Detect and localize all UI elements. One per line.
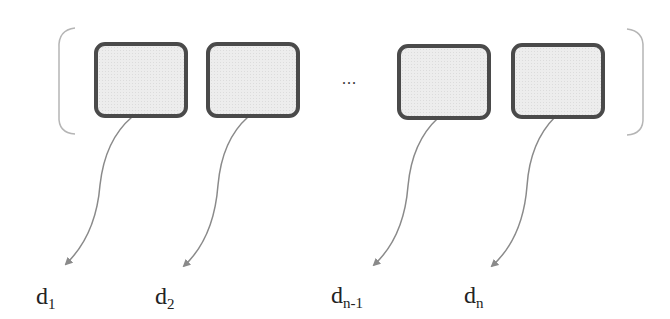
vector-element-n [511, 43, 605, 119]
label-subscript: 1 [48, 296, 56, 312]
label-base: d [464, 282, 476, 308]
label-subscript: 2 [167, 296, 175, 312]
label-base: d [331, 282, 343, 308]
label-dn-1: dn-1 [331, 283, 363, 311]
arrow-n [492, 117, 555, 266]
label-base: d [36, 283, 48, 309]
arrow-n-1 [374, 118, 438, 265]
label-dn: dn [464, 283, 484, 311]
ellipsis: ... [342, 70, 357, 88]
label-base: d [155, 283, 167, 309]
label-d1: d1 [36, 284, 56, 312]
arrow-2 [184, 117, 248, 266]
left-bracket [59, 28, 75, 134]
label-subscript: n-1 [343, 295, 363, 311]
vector-element-2 [206, 42, 300, 118]
label-subscript: n [476, 295, 484, 311]
label-d2: d2 [155, 284, 175, 312]
vector-element-n-1 [397, 44, 491, 120]
right-bracket [627, 29, 643, 135]
arrow-1 [66, 117, 132, 264]
vector-element-1 [94, 42, 188, 118]
